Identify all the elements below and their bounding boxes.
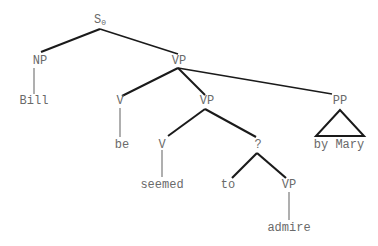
node-be: be — [115, 139, 129, 151]
node-by-mary: by Mary — [314, 139, 364, 151]
node-np: NP — [33, 55, 47, 67]
edge-q-to — [232, 153, 257, 178]
tree-edges — [0, 0, 378, 246]
edge-s0-np — [41, 29, 100, 52]
syntax-tree: S0 NP VP Bill V VP PP be V ? by Mary see… — [0, 0, 378, 246]
node-admire: admire — [267, 222, 310, 234]
node-v-be: V — [116, 95, 123, 107]
node-vp-mid: VP — [200, 95, 214, 107]
node-vp-top: VP — [172, 55, 186, 67]
edge-q-vp — [257, 153, 286, 178]
edge-vpmid-v — [168, 109, 205, 136]
edge-s0-vp — [100, 29, 178, 54]
node-vp-low: VP — [282, 179, 296, 191]
node-pp: PP — [333, 95, 347, 107]
node-bill: Bill — [20, 95, 49, 107]
node-s0-subscript: 0 — [101, 18, 106, 27]
node-v-seemed: V — [158, 139, 165, 151]
edge-vp-v — [122, 68, 178, 96]
pp-triangle — [316, 110, 364, 136]
node-s0: S0 — [94, 14, 106, 27]
node-question: ? — [254, 139, 261, 151]
node-seemed: seemed — [140, 179, 183, 191]
node-to: to — [221, 179, 235, 191]
edge-vpmid-q — [205, 109, 256, 137]
